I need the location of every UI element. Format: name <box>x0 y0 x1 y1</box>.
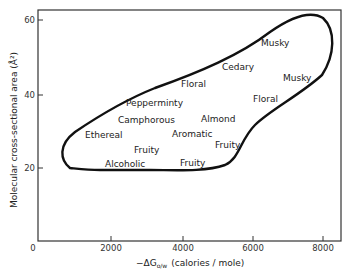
x-label-sub: o/w <box>157 262 168 269</box>
svg-text:−ΔGo/w(calories / mole): −ΔGo/w(calories / mole) <box>136 258 244 269</box>
label-floral-2: Floral <box>253 94 278 104</box>
x-label-main: −ΔG <box>136 258 157 268</box>
label-musky-1: Musky <box>261 38 290 48</box>
x-tick-0: 0 <box>30 243 35 253</box>
x-axis-label: −ΔGo/w(calories / mole) <box>136 258 244 269</box>
chart: 60 40 20 0 2000 4000 6000 8000 −ΔGo/w(ca… <box>0 0 351 274</box>
label-almond: Almond <box>201 114 235 124</box>
y-tick-20: 20 <box>24 163 35 173</box>
y-axis-label: Molecular cross-sectional area (Å²) <box>8 52 19 208</box>
y-tick-40: 40 <box>24 90 35 100</box>
label-camphorous: Camphorous <box>118 115 175 125</box>
label-ethereal: Ethereal <box>85 130 123 140</box>
label-fruity-3: Fruity <box>180 158 206 168</box>
label-alcoholic: Alcoholic <box>105 159 145 169</box>
odor-region-curve <box>62 15 332 170</box>
label-fruity-1: Fruity <box>215 140 241 150</box>
odor-labels: Musky Cedary Floral Musky Pepperminty Fl… <box>85 38 312 169</box>
x-axis: 0 2000 4000 6000 8000 <box>30 236 334 253</box>
label-cedary: Cedary <box>222 62 255 72</box>
x-tick-8000: 8000 <box>312 243 334 253</box>
label-peppermint: Pepperminty <box>126 98 184 108</box>
x-tick-2000: 2000 <box>100 243 122 253</box>
y-tick-60: 60 <box>24 15 35 25</box>
x-label-units: (calories / mole) <box>171 258 244 268</box>
label-musky-2: Musky <box>283 73 312 83</box>
x-tick-6000: 6000 <box>242 243 264 253</box>
label-aromatic: Aromatic <box>172 129 212 139</box>
label-floral-1: Floral <box>181 79 206 89</box>
label-fruity-2: Fruity <box>134 145 160 155</box>
x-tick-4000: 4000 <box>172 243 194 253</box>
y-axis: 60 40 20 <box>24 15 43 173</box>
